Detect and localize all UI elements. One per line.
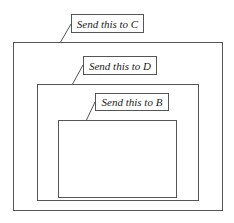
connector-lines [0, 0, 234, 223]
label-send-to-c: Send this to C [71, 14, 144, 33]
label-send-to-b: Send this to B [95, 93, 169, 111]
label-send-to-d: Send this to D [83, 56, 157, 75]
